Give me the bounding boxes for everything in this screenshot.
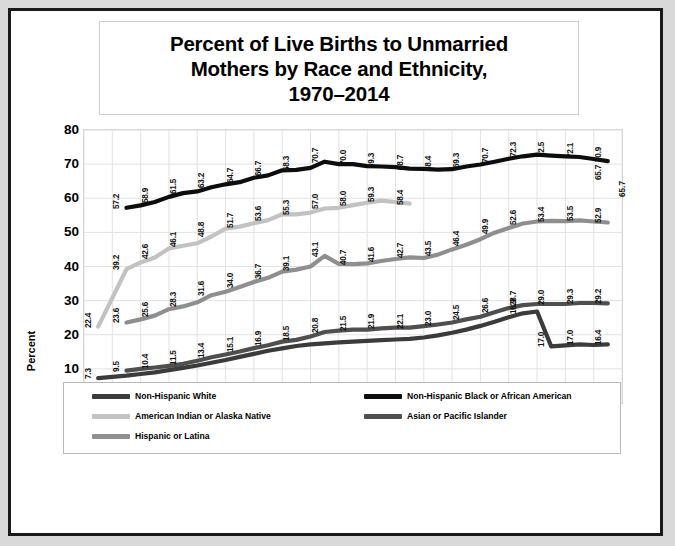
data-point-label: 28.3 — [169, 292, 178, 307]
y-axis-tick: 40 — [37, 258, 79, 273]
legend-label: Asian or Pacific Islander — [407, 411, 507, 421]
legend-swatch-icon — [364, 414, 402, 419]
page-title: Percent of Live Births to UnmarriedMothe… — [170, 31, 508, 106]
legend-label: Hispanic or Latina — [135, 431, 210, 441]
data-point-label: 17.0 — [537, 332, 546, 347]
legend-item[interactable]: Non-Hispanic White — [92, 391, 216, 401]
data-point-label: 42.7 — [396, 243, 405, 258]
series-lines — [84, 130, 622, 403]
data-point-label: 49.9 — [481, 219, 490, 234]
data-point-label: 10.4 — [141, 353, 150, 368]
data-point-label: 7.3 — [84, 368, 93, 379]
data-point-label: 40.7 — [339, 250, 348, 265]
data-point-label: 72.1 — [566, 143, 575, 158]
data-point-label: 16.9 — [254, 331, 263, 346]
data-point-label: 59.3 — [367, 186, 376, 201]
legend-swatch-icon — [92, 434, 130, 439]
data-point-label: 25.6 — [141, 301, 150, 316]
title-line: Mothers by Race and Ethnicity, — [170, 56, 508, 81]
data-point-label: 15.1 — [226, 337, 235, 352]
data-point-label: 16.9 — [509, 299, 518, 314]
data-point-label: 34.0 — [226, 273, 235, 288]
data-point-label: 29.3 — [566, 289, 575, 304]
data-point-label: 16.4 — [594, 330, 603, 345]
data-point-label: 17.0 — [566, 330, 575, 345]
data-point-label: 63.2 — [197, 173, 206, 188]
data-point-label: 53.4 — [537, 207, 546, 222]
data-point-label: 64.7 — [226, 168, 235, 183]
y-axis-tick: 30 — [37, 292, 79, 307]
y-axis-tick: 50 — [37, 224, 79, 239]
data-point-label: 52.9 — [594, 208, 603, 223]
data-point-label: 43.5 — [424, 240, 433, 255]
data-point-label: 29.2 — [594, 289, 603, 304]
legend-item[interactable]: Non-Hispanic Black or African American — [364, 391, 572, 401]
data-point-label: 43.1 — [311, 242, 320, 257]
data-point-label: 46.1 — [169, 232, 178, 247]
data-point-label: 53.5 — [566, 206, 575, 221]
data-point-label: 13.4 — [197, 343, 206, 358]
data-point-label: 20.8 — [311, 318, 320, 333]
y-axis-ticks: 01020304050607080 — [11, 115, 79, 415]
data-point-label: 41.6 — [367, 247, 376, 262]
y-axis-tick: 70 — [37, 156, 79, 171]
data-point-label: 23.0 — [424, 310, 433, 325]
y-axis-tick: 80 — [37, 122, 79, 137]
title-line: 1970–2014 — [170, 81, 508, 106]
data-point-label: 18.5 — [282, 326, 291, 341]
data-point-label: 57.2 — [112, 194, 121, 209]
data-point-label: 68.4 — [424, 155, 433, 170]
chart-legend: Non-Hispanic WhiteNon-Hispanic Black or … — [63, 382, 621, 454]
data-point-label: 39.2 — [112, 255, 121, 270]
data-point-label: 58.0 — [339, 191, 348, 206]
title-line: Percent of Live Births to Unmarried — [170, 31, 508, 56]
data-point-label: 68.7 — [396, 154, 405, 169]
data-point-label: 29.0 — [537, 290, 546, 305]
plot-canvas — [83, 129, 623, 404]
legend-item[interactable]: Hispanic or Latina — [92, 431, 210, 441]
legend-item[interactable]: Asian or Pacific Islander — [364, 411, 507, 421]
data-point-label: 65.7 — [594, 165, 603, 180]
data-point-label: 69.3 — [367, 152, 376, 167]
data-point-label: 57.0 — [311, 194, 320, 209]
legend-label: Non-Hispanic White — [135, 391, 216, 401]
data-point-label: 69.3 — [452, 152, 461, 167]
data-point-label: 68.3 — [282, 156, 291, 171]
data-point-label: 72.3 — [509, 142, 518, 157]
data-point-label: 51.7 — [226, 212, 235, 227]
data-point-label: 42.6 — [141, 243, 150, 258]
y-axis-tick: 10 — [37, 360, 79, 375]
data-point-label: 53.6 — [254, 206, 263, 221]
data-point-label: 70.7 — [311, 148, 320, 163]
data-point-label: 66.7 — [254, 161, 263, 176]
data-point-label: 36.7 — [254, 264, 263, 279]
data-point-label: 72.5 — [537, 141, 546, 156]
data-point-label: 9.5 — [112, 361, 121, 372]
edge-annotation: 65.7 — [618, 181, 627, 197]
legend-swatch-icon — [364, 394, 402, 399]
data-point-label: 70.7 — [481, 148, 490, 163]
data-point-label: 70.0 — [339, 150, 348, 165]
legend-swatch-icon — [92, 394, 130, 399]
data-point-label: 48.8 — [197, 222, 206, 237]
legend-swatch-icon — [92, 414, 130, 419]
data-point-label: 26.6 — [481, 298, 490, 313]
data-point-label: 21.5 — [339, 315, 348, 330]
legend-item[interactable]: American Indian or Alaska Native — [92, 411, 271, 421]
data-point-label: 46.4 — [452, 231, 461, 246]
data-point-label: 58.4 — [396, 190, 405, 205]
data-point-label: 23.6 — [112, 308, 121, 323]
data-point-label: 31.6 — [197, 281, 206, 296]
data-point-label: 11.5 — [169, 350, 178, 365]
legend-label: American Indian or Alaska Native — [135, 411, 271, 421]
data-point-label: 39.1 — [282, 255, 291, 270]
data-point-label: 70.9 — [594, 147, 603, 162]
data-point-label: 55.3 — [282, 200, 291, 215]
chart-title-box: Percent of Live Births to UnmarriedMothe… — [99, 21, 579, 115]
chart-frame: Percent of Live Births to UnmarriedMothe… — [8, 8, 663, 536]
data-point-label: 24.5 — [452, 305, 461, 320]
legend-label: Non-Hispanic Black or African American — [407, 391, 572, 401]
data-point-label: 61.5 — [169, 179, 178, 194]
data-point-label: 21.9 — [367, 314, 376, 329]
data-point-label: 22.1 — [396, 313, 405, 328]
